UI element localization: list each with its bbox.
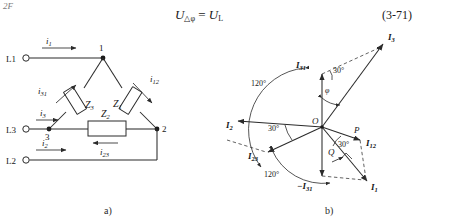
construction-dash-I31-to-I3: [322, 47, 381, 74]
arc-30-top: [330, 71, 332, 80]
phasor-I3: [322, 44, 383, 127]
arrow-Q-to-foot: [332, 157, 343, 162]
phasor-label-minus-I31: −I31: [297, 181, 312, 192]
arc-30-left: [285, 125, 292, 140]
angle-label-120-lower: 120°: [264, 170, 279, 179]
arc-120-lower: [272, 150, 330, 183]
construction-dash-minusI31-to-I1: [322, 176, 364, 180]
origin-dot: [320, 125, 324, 129]
phasor-label-I31: I31: [295, 60, 306, 71]
arc-phi: [322, 98, 340, 105]
figure-page: 2F U△φ = UL (3-71) L1 i1 1: [0, 0, 454, 223]
construction-dash-to-I23: [227, 140, 266, 152]
angle-label-30-left: 30°: [268, 124, 279, 133]
phasor-label-I1: I1: [370, 182, 378, 193]
caption-figure-b: b): [325, 205, 333, 216]
angle-label-phi: φ: [325, 86, 330, 95]
angle-label-30-top: 30°: [333, 66, 344, 75]
phasor-label-I2: I2: [225, 120, 234, 131]
phasor-label-I12: I12: [365, 138, 377, 149]
caption-figure-a: a): [104, 205, 112, 216]
phasor-diagram-b: I31 I3 30° φ I2 I23 30° −I31 P I12 30°: [0, 0, 454, 223]
point-label-P: P: [353, 125, 360, 135]
phasor-label-I3: I3: [387, 32, 396, 43]
point-label-Q: Q: [328, 147, 335, 157]
phasor-I2: [238, 121, 322, 127]
angle-label-120-upper: 120°: [251, 79, 266, 88]
origin-label: O: [312, 116, 319, 126]
